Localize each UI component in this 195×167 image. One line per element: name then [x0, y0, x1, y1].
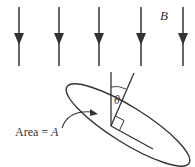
in-plane-line: [111, 126, 153, 149]
area-label: Area = A: [15, 125, 59, 139]
area-pointer-arrowhead: [90, 109, 98, 116]
magnetic-flux-diagram: B θ Area = A: [0, 0, 195, 167]
area-label-var: A: [50, 125, 59, 139]
right-angle-marker: [116, 116, 125, 131]
field-label: B: [160, 8, 168, 23]
angle-label: θ: [114, 93, 120, 107]
field-arrow: [94, 7, 104, 66]
field-arrow: [136, 7, 146, 66]
theta-arc: [111, 86, 126, 89]
field-arrow: [54, 7, 64, 66]
field-arrow: [14, 7, 24, 66]
area-label-prefix: Area =: [15, 125, 51, 139]
loop-ellipse: [57, 72, 195, 167]
field-arrow: [178, 7, 188, 66]
area-pointer-arrow: [62, 112, 92, 128]
